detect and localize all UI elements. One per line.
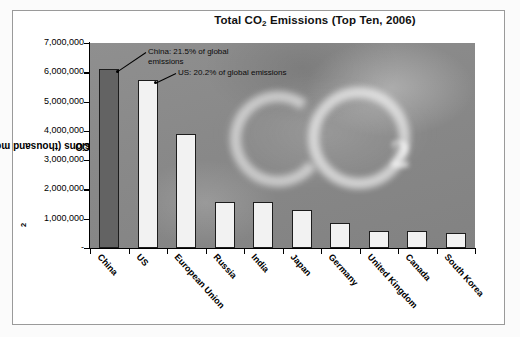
smoke-subscript-two-icon: 2 — [390, 135, 424, 175]
y-tick-label: 6,000,000 — [8, 66, 84, 76]
annotation-china: China: 21.5% of global emissions — [148, 47, 260, 67]
bar-russia — [215, 202, 235, 248]
y-tick-mark — [84, 189, 90, 190]
bar-japan — [292, 210, 312, 248]
bar-china — [99, 69, 119, 248]
y-tick-mark — [84, 102, 90, 103]
y-tick-label: 7,000,000 — [8, 37, 84, 47]
bar-india — [253, 202, 273, 248]
china-leader-line-arrowhead — [116, 70, 119, 73]
annotation-us: US: 20.2% of global emissions — [178, 68, 290, 78]
bar-canada — [407, 231, 427, 248]
x-tick-mark — [475, 248, 476, 254]
x-tick-mark — [398, 248, 399, 254]
x-tick-mark — [129, 248, 130, 254]
x-tick-mark — [206, 248, 207, 254]
y-tick-label: 5,000,000 — [8, 96, 84, 106]
bar-european-union — [176, 134, 196, 248]
y-tick-mark — [84, 219, 90, 220]
x-tick-mark — [167, 248, 168, 254]
x-tick-mark — [283, 248, 284, 254]
bar-germany — [330, 223, 350, 248]
y-tick-mark — [84, 72, 90, 73]
y-tick-mark — [84, 160, 90, 161]
y-tick-label: 2,000,000 — [8, 183, 84, 193]
y-tick-label: - — [8, 242, 84, 252]
y-tick-label: 3,000,000 — [8, 154, 84, 164]
x-tick-mark — [360, 248, 361, 254]
bar-south-korea — [446, 233, 466, 248]
chart-screenshot: Total CO2 Emissions (Top Ten, 2006) CO2 … — [0, 0, 520, 337]
x-tick-mark — [244, 248, 245, 254]
chart-title-suffix: Emissions (Top Ten, 2006) — [267, 14, 416, 26]
bar-us — [138, 80, 158, 248]
y-tick-label: 4,000,000 — [8, 125, 84, 135]
bar-united-kingdom — [369, 231, 389, 248]
y-tick-mark — [84, 131, 90, 132]
y-tick-mark — [84, 43, 90, 44]
y-axis-tick-labels: 7,000,0006,000,0005,000,0004,000,0003,00… — [4, 0, 84, 337]
x-tick-mark — [90, 248, 91, 254]
chart-title: Total CO2 Emissions (Top Ten, 2006) — [150, 14, 480, 28]
x-tick-mark — [321, 248, 322, 254]
y-tick-label: 1,000,000 — [8, 213, 84, 223]
chart-title-prefix: Total CO — [214, 14, 262, 26]
x-tick-mark — [437, 248, 438, 254]
